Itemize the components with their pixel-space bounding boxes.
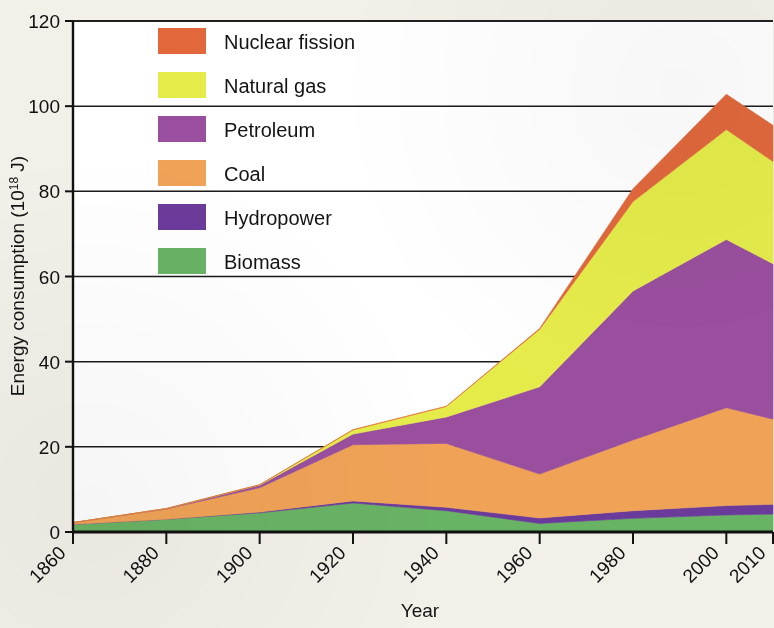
legend-swatch-biomass	[158, 248, 206, 274]
y-tick-label-120: 120	[28, 11, 60, 32]
y-axis-title-suffix: J)	[7, 156, 28, 177]
y-tick-label-100: 100	[28, 96, 60, 117]
y-tick-label-0: 0	[49, 522, 60, 543]
x-tick-label-2010: 2010	[725, 542, 770, 587]
y-axis-title: Energy consumption (1018 J)	[7, 156, 28, 396]
legend-swatch-nuclear-fission	[158, 28, 206, 54]
legend-label-coal: Coal	[224, 163, 265, 185]
legend-label-hydropower: Hydropower	[224, 207, 332, 229]
x-axis-tick-labels: 186018801900192019401960198020002010	[25, 542, 770, 587]
y-tick-label-20: 20	[39, 437, 60, 458]
legend-label-natural-gas: Natural gas	[224, 75, 326, 97]
energy-consumption-stacked-area-chart: 020406080100120 186018801900192019401960…	[0, 0, 774, 628]
legend-swatch-coal	[158, 160, 206, 186]
legend-label-petroleum: Petroleum	[224, 119, 315, 141]
y-axis-title-exponent: 18	[7, 177, 21, 191]
x-tick-label-1920: 1920	[305, 542, 350, 587]
y-tick-label-80: 80	[39, 181, 60, 202]
y-tick-label-40: 40	[39, 352, 60, 373]
legend-swatch-natural-gas	[158, 72, 206, 98]
y-axis-tick-labels: 020406080100120	[28, 11, 60, 543]
y-tick-label-60: 60	[39, 267, 60, 288]
x-tick-label-1980: 1980	[585, 542, 630, 587]
legend-swatch-petroleum	[158, 116, 206, 142]
x-tick-label-1900: 1900	[212, 542, 257, 587]
x-axis-ticks	[73, 532, 773, 544]
x-tick-label-1960: 1960	[492, 542, 537, 587]
x-tick-label-2000: 2000	[678, 542, 723, 587]
y-axis-title-prefix: Energy consumption (10	[7, 190, 28, 396]
x-axis-title: Year	[401, 600, 440, 621]
legend-label-biomass: Biomass	[224, 251, 301, 273]
legend-label-nuclear-fission: Nuclear fission	[224, 31, 355, 53]
figure-canvas: 020406080100120 186018801900192019401960…	[0, 0, 774, 628]
x-tick-label-1880: 1880	[118, 542, 163, 587]
x-tick-label-1940: 1940	[398, 542, 443, 587]
legend-swatch-hydropower	[158, 204, 206, 230]
x-tick-label-1860: 1860	[25, 542, 70, 587]
